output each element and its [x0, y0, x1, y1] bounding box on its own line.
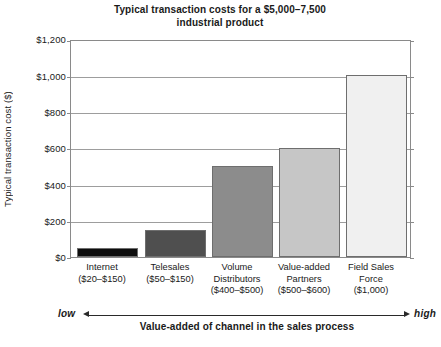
category-label-field-sales-force: Field Sales Force ($1,000): [332, 262, 410, 297]
y-tick-label-600: $600: [6, 144, 66, 154]
plot-area: [70, 40, 411, 258]
y-tick-label-0: $0: [6, 253, 66, 263]
value-added-low-label: low: [58, 308, 75, 319]
tick-right-400: [410, 186, 414, 187]
tick-left-0: [67, 258, 71, 259]
bar-field-sales-force[interactable]: [346, 75, 407, 257]
arrow-left-icon: [83, 311, 89, 317]
x-axis-title: Value-added of channel in the sales proc…: [58, 321, 436, 332]
value-added-axis: low high Value-added of channel in the s…: [58, 308, 436, 340]
chart-title-line-2: industrial product: [60, 16, 380, 29]
tick-right-0: [410, 258, 414, 259]
tick-right-1000: [410, 77, 414, 78]
category-label-internet-line-2: ($20–$150): [63, 274, 141, 286]
tick-right-600: [410, 149, 414, 150]
category-label-internet: Internet ($20–$150): [63, 262, 141, 285]
bar-value-added-partners[interactable]: [279, 148, 340, 257]
bar-series: [71, 41, 410, 257]
category-label-field-sales-force-line-1: Field Sales: [332, 262, 410, 274]
arrow-right-icon: [404, 311, 410, 317]
category-label-field-sales-force-line-2: Force: [332, 274, 410, 286]
chart-title-line-1: Typical transaction costs for a $5,000–7…: [60, 3, 380, 16]
y-tick-label-800: $800: [6, 108, 66, 118]
tick-right-200: [410, 222, 414, 223]
y-tick-label-1000: $1,000: [6, 72, 66, 82]
bar-telesales[interactable]: [145, 230, 206, 257]
category-label-field-sales-force-line-3: ($1,000): [332, 285, 410, 297]
tick-right-1200: [410, 41, 414, 42]
category-label-internet-line-1: Internet: [63, 262, 141, 274]
bar-internet[interactable]: [77, 248, 138, 257]
value-added-arrow-line: [89, 315, 404, 316]
y-tick-label-1200: $1,200: [6, 35, 66, 45]
y-tick-label-400: $400: [6, 181, 66, 191]
chart-figure: Typical transaction costs for a $5,000–7…: [0, 0, 441, 347]
bar-volume-distributors[interactable]: [212, 166, 273, 257]
chart-title: Typical transaction costs for a $5,000–7…: [60, 3, 380, 29]
y-tick-label-200: $200: [6, 217, 66, 227]
value-added-high-label: high: [414, 308, 436, 319]
tick-right-800: [410, 113, 414, 114]
